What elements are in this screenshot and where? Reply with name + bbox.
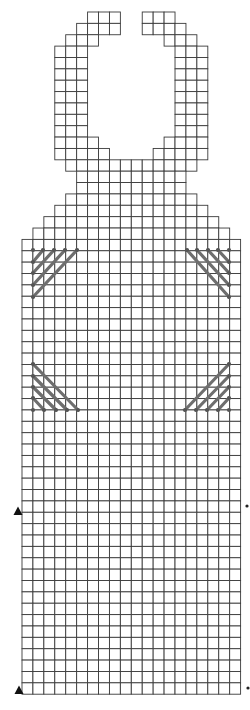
grid-cell — [120, 194, 131, 205]
grid-cell — [219, 319, 230, 330]
grid-cell — [131, 558, 142, 569]
grid-cell — [55, 364, 66, 375]
grid-cell — [120, 649, 131, 660]
grid-cell — [66, 558, 77, 569]
grid-cell — [77, 615, 88, 626]
grid-cell — [33, 308, 44, 319]
grid-cell — [109, 12, 120, 23]
grid-cell — [186, 501, 197, 512]
grid-cell — [164, 148, 175, 159]
grid-cell — [22, 569, 33, 580]
grid-cell — [66, 205, 77, 216]
grid-cell — [99, 558, 110, 569]
grid-cell — [88, 603, 99, 614]
grid-cell — [44, 569, 55, 580]
grid-cell — [33, 581, 44, 592]
grid-cell — [175, 546, 186, 557]
grid-cell — [120, 262, 131, 273]
grid-cell — [175, 137, 186, 148]
grid-cell — [175, 183, 186, 194]
hatch-dot — [41, 248, 45, 252]
grid-cell — [77, 137, 88, 148]
grid-cell — [120, 285, 131, 296]
grid-cell — [175, 57, 186, 68]
grid-cell — [120, 467, 131, 478]
grid-cell — [77, 535, 88, 546]
grid-cell — [186, 592, 197, 603]
grid-cell — [88, 660, 99, 671]
grid-cell — [77, 35, 88, 46]
grid-cell — [131, 342, 142, 353]
grid-cell — [142, 637, 153, 648]
grid-cell — [88, 626, 99, 637]
grid-cell — [131, 421, 142, 432]
grid-cell — [44, 217, 55, 228]
grid-cell — [22, 421, 33, 432]
grid-cell — [197, 592, 208, 603]
grid-cell — [109, 194, 120, 205]
hatch-dot — [76, 408, 80, 412]
grid-cell — [99, 330, 110, 341]
grid-cell — [88, 569, 99, 580]
grid-cell — [109, 603, 120, 614]
grid-cell — [109, 421, 120, 432]
grid-cell — [120, 490, 131, 501]
grid-cell — [164, 410, 175, 421]
grid-cell — [99, 478, 110, 489]
grid-cell — [77, 183, 88, 194]
grid-cell — [186, 228, 197, 239]
grid-cell — [153, 433, 164, 444]
grid-cell — [88, 592, 99, 603]
grid-cell — [77, 342, 88, 353]
grid-cell — [131, 387, 142, 398]
grid-cell — [175, 524, 186, 535]
grid-cell — [88, 330, 99, 341]
grid-cell — [22, 637, 33, 648]
grid-cell — [120, 353, 131, 364]
grid-cell — [120, 387, 131, 398]
grid-cell — [22, 274, 33, 285]
grid-cell — [88, 558, 99, 569]
grid-cell — [88, 444, 99, 455]
grid-cell — [131, 455, 142, 466]
grid-cell — [131, 581, 142, 592]
grid-cell — [109, 637, 120, 648]
hatch-dot — [31, 295, 35, 299]
grid-cell — [66, 637, 77, 648]
grid-cell — [164, 137, 175, 148]
grid-cell — [22, 558, 33, 569]
grid-cell — [208, 421, 219, 432]
grid-cell — [66, 501, 77, 512]
grid-cell — [44, 581, 55, 592]
grid-cell — [55, 137, 66, 148]
grid-cell — [99, 342, 110, 353]
grid-cell — [55, 546, 66, 557]
grid-cell — [77, 217, 88, 228]
grid-cell — [77, 421, 88, 432]
grid-cell — [120, 274, 131, 285]
grid-cell — [175, 421, 186, 432]
grid-cell — [77, 512, 88, 523]
grid-cell — [230, 251, 241, 262]
grid-cell — [131, 444, 142, 455]
grid-cell — [55, 455, 66, 466]
grid-cell — [99, 535, 110, 546]
grid-cell — [186, 683, 197, 694]
grid-cell — [175, 683, 186, 694]
grid-cell — [99, 148, 110, 159]
grid-cell — [99, 603, 110, 614]
grid-cell — [164, 615, 175, 626]
grid-cell — [197, 581, 208, 592]
grid-cell — [55, 592, 66, 603]
grid-cell — [219, 569, 230, 580]
grid-cell — [142, 581, 153, 592]
grid-cell — [44, 364, 55, 375]
grid-cell — [99, 615, 110, 626]
grid-cell — [77, 353, 88, 364]
grid-cell — [208, 285, 219, 296]
grid-cell — [120, 421, 131, 432]
grid-cell — [197, 217, 208, 228]
grid-cell — [66, 467, 77, 478]
grid-cell — [131, 296, 142, 307]
grid-cell — [22, 364, 33, 375]
